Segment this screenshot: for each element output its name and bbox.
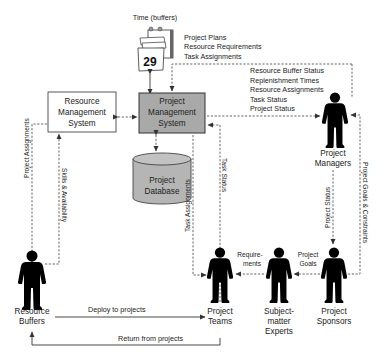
svg-text:Resource: Resource <box>64 97 99 106</box>
task-status-label: Task Status <box>221 158 228 193</box>
svg-text:Resource: Resource <box>14 307 49 316</box>
project-sponsors-node: Project Sponsors <box>317 247 352 326</box>
svg-text:Database: Database <box>144 187 179 196</box>
svg-text:Management: Management <box>58 108 107 117</box>
task-assignments-label: Task Assignments <box>184 179 192 232</box>
svg-text:Subject-: Subject- <box>264 307 294 316</box>
svg-text:Project: Project <box>159 97 185 106</box>
project-assignments-label: Project Assignments <box>23 118 31 178</box>
skills-availability-link <box>45 134 59 264</box>
project-goals-constraints-link <box>348 115 360 274</box>
svg-text:Teams: Teams <box>208 317 232 326</box>
subject-matter-experts-node: Subject- matter Experts <box>264 247 294 336</box>
svg-text:Project Status: Project Status <box>250 104 295 113</box>
svg-text:Goals: Goals <box>299 260 317 267</box>
svg-text:Resource Buffer Status: Resource Buffer Status <box>250 66 325 75</box>
svg-text:System: System <box>68 119 95 128</box>
svg-text:Project: Project <box>320 149 346 158</box>
svg-text:Management: Management <box>148 108 197 117</box>
calendar-icon: Time (buffers) 29 <box>133 13 177 71</box>
project-managers-node: Project Managers <box>315 92 351 168</box>
svg-text:Managers: Managers <box>315 159 351 168</box>
project-management-system-node: Project Management System <box>139 93 205 133</box>
svg-text:Project: Project <box>321 307 347 316</box>
resource-management-diagram: Time (buffers) 29 Project Plans Resource… <box>0 0 387 357</box>
svg-text:matter: matter <box>267 317 290 326</box>
svg-text:Experts: Experts <box>265 327 293 336</box>
project-database-node: Project Database <box>133 153 191 204</box>
skills-availability-label: Skills & Availability <box>60 168 68 223</box>
calendar-title: Time (buffers) <box>133 13 177 22</box>
resource-management-system-node: Resource Management System <box>48 92 116 132</box>
svg-text:ments: ments <box>243 260 262 267</box>
pms-to-managers-labels: Resource Buffer Status Replenishment Tim… <box>250 66 325 113</box>
svg-text:Buffers: Buffers <box>19 317 45 326</box>
svg-text:Resource Requirements: Resource Requirements <box>184 42 262 51</box>
svg-text:Replenishment Times: Replenishment Times <box>250 76 320 85</box>
project-goals-constraints-label: Project Goals & Constraints <box>361 162 369 244</box>
project-assignments-link <box>32 124 47 262</box>
svg-text:Project: Project <box>149 176 175 185</box>
svg-text:Task Status: Task Status <box>250 95 288 104</box>
requirements-label: Require- <box>237 251 262 259</box>
calendar-day: 29 <box>143 55 157 69</box>
calendar-outputs-label: Project Plans Resource Requirements Task… <box>184 33 262 61</box>
svg-text:Project: Project <box>207 307 233 316</box>
return-label: Return from projects <box>118 334 184 343</box>
svg-text:Project Plans: Project Plans <box>184 33 227 42</box>
project-status-label: Project Status <box>324 186 332 228</box>
svg-text:Task Assignments: Task Assignments <box>184 52 242 61</box>
svg-text:Sponsors: Sponsors <box>317 317 352 326</box>
svg-text:System: System <box>158 119 185 128</box>
deploy-label: Deploy to projects <box>88 305 146 314</box>
task-assignments-link <box>193 135 206 275</box>
project-goals-label: Project <box>298 251 319 259</box>
svg-text:Resource Assignments: Resource Assignments <box>250 85 324 94</box>
